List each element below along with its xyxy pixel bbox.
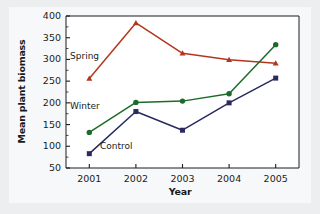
x-tick-label: 2001 — [69, 173, 109, 184]
x-tick-label: 2005 — [256, 173, 296, 184]
data-point-winter — [226, 91, 231, 96]
data-point-control — [273, 76, 278, 81]
data-point-winter — [87, 130, 92, 135]
data-point-winter — [133, 100, 138, 105]
data-point-winter — [273, 42, 278, 47]
data-point-control — [180, 128, 185, 133]
x-tick-label: 2003 — [163, 173, 203, 184]
y-tick-label: 250 — [35, 75, 61, 86]
series-label-control: Control — [100, 141, 133, 151]
y-tick-label: 200 — [35, 97, 61, 108]
x-axis-title: Year — [60, 186, 300, 197]
y-tick-label: 100 — [35, 140, 61, 151]
data-point-control — [227, 100, 232, 105]
y-tick-label: 150 — [35, 119, 61, 130]
y-tick-label: 50 — [35, 162, 61, 173]
y-axis-title: Mean plant biomass — [16, 22, 27, 162]
data-point-winter — [180, 98, 185, 103]
x-tick-label: 2002 — [116, 173, 156, 184]
data-point-control — [87, 151, 92, 156]
series-label-spring: Spring — [70, 51, 99, 61]
x-tick-label: 2004 — [209, 173, 249, 184]
y-tick-label: 400 — [35, 10, 61, 21]
series-label-winter: Winter — [70, 101, 100, 111]
figure-background: Mean plant biomass Year 5010015020025030… — [0, 0, 320, 214]
y-tick-label: 350 — [35, 32, 61, 43]
data-point-control — [133, 109, 138, 114]
y-tick-label: 300 — [35, 53, 61, 64]
